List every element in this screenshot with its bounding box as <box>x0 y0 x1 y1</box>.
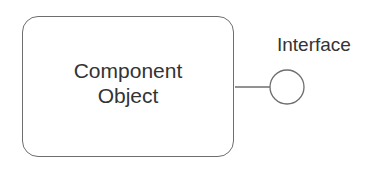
interface-lollipop-icon <box>270 70 304 104</box>
interface-label: Interface <box>277 33 351 57</box>
interface-connector-graphic <box>0 0 386 172</box>
